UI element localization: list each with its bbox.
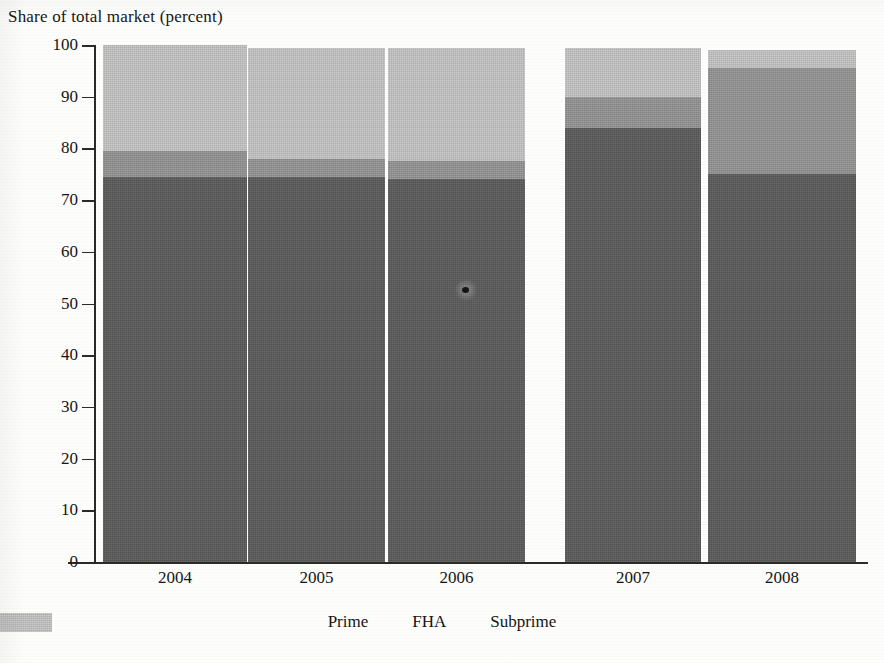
x-axis-label-2004: 2004 [103, 568, 247, 588]
y-axis-tick [82, 407, 94, 409]
legend-label-subprime: Subprime [490, 612, 556, 632]
x-axis-label-2008: 2008 [708, 568, 856, 588]
bar-segment-subprime-2005 [248, 48, 385, 159]
y-axis-tick [82, 148, 94, 150]
y-axis-label: 10 [18, 500, 78, 520]
legend-item-prime: Prime [328, 612, 369, 632]
y-axis-tick [82, 200, 94, 202]
y-axis-label: 60 [18, 242, 78, 262]
bar-segment-fha-2007 [565, 97, 701, 128]
y-axis-tick [82, 459, 94, 461]
scan-speck [462, 287, 469, 293]
bar-segment-subprime-2006 [388, 48, 525, 162]
y-axis-label: 50 [18, 294, 78, 314]
bar-2007 [565, 45, 701, 562]
bar-segment-prime-2005 [248, 177, 385, 562]
y-axis-tick [82, 45, 94, 47]
y-axis-tick [82, 97, 94, 99]
chart-title: Share of total market (percent) [8, 7, 223, 27]
x-axis-line [68, 562, 868, 564]
bar-segment-prime-2008 [708, 174, 856, 562]
bar-2005 [248, 45, 385, 562]
bar-segment-subprime-2004 [103, 45, 247, 151]
bar-2006 [388, 45, 525, 562]
chart-figure: Share of total market (percent) 10090807… [0, 0, 884, 663]
bar-segment-fha-2008 [708, 68, 856, 174]
chart-legend: PrimeFHASubprime [0, 612, 884, 632]
y-axis-tick [82, 510, 94, 512]
legend-label-prime: Prime [328, 612, 369, 632]
bar-segment-prime-2007 [565, 128, 701, 562]
x-axis-label-2007: 2007 [565, 568, 701, 588]
y-axis-label: 20 [18, 449, 78, 469]
x-axis-label-2005: 2005 [248, 568, 385, 588]
bar-segment-prime-2004 [103, 177, 247, 562]
legend-item-fha: FHA [412, 612, 446, 632]
bar-segment-prime-2006 [388, 179, 525, 562]
bar-segment-fha-2006 [388, 161, 525, 179]
legend-swatch-subprime [0, 613, 52, 632]
y-axis-tick [82, 562, 94, 564]
bar-segment-fha-2004 [103, 151, 247, 177]
y-axis-tick [82, 355, 94, 357]
legend-item-subprime: Subprime [490, 612, 556, 632]
y-axis-label: 80 [18, 138, 78, 158]
bar-segment-subprime-2008 [708, 50, 856, 68]
y-axis-label: 0 [18, 552, 78, 572]
y-axis-label: 30 [18, 397, 78, 417]
y-axis-label: 40 [18, 345, 78, 365]
y-axis-label: 70 [18, 190, 78, 210]
bar-2004 [103, 45, 247, 562]
y-axis-tick [82, 304, 94, 306]
bar-2008 [708, 45, 856, 562]
y-axis-label: 90 [18, 87, 78, 107]
y-axis-tick [82, 252, 94, 254]
bar-segment-fha-2005 [248, 159, 385, 177]
x-axis-label-2006: 2006 [388, 568, 525, 588]
y-axis-label: 100 [18, 35, 78, 55]
bar-segment-subprime-2007 [565, 48, 701, 97]
legend-label-fha: FHA [412, 612, 446, 632]
plot-area [95, 45, 860, 562]
